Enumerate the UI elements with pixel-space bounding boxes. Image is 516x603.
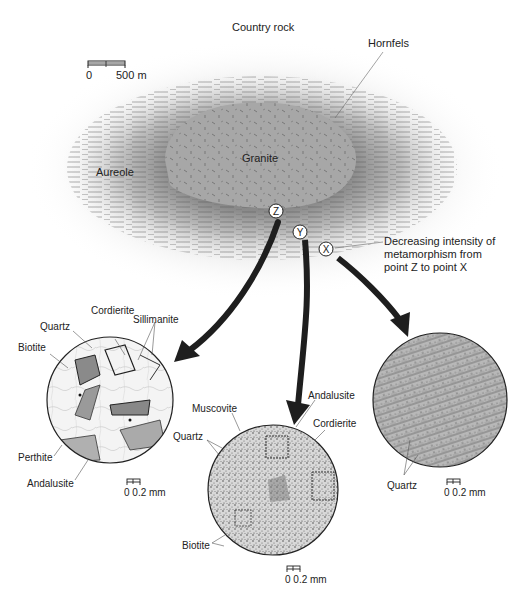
point-y-marker: Y (293, 225, 307, 239)
y-label-cordierite: Cordierite (313, 418, 356, 429)
y-label-muscovite: Muscovite (192, 403, 237, 414)
map-scale-end: 500 m (116, 69, 147, 81)
z-label-sillimanite: Sillimanite (133, 314, 179, 325)
caption-line-3: point Z to point X (384, 262, 467, 273)
svg-text:X: X (323, 244, 330, 255)
z-label-quartz: Quartz (40, 321, 70, 332)
y-label-quartz: Quartz (173, 431, 203, 442)
x-scale-label: 0 0.2 mm (444, 487, 486, 498)
scale-bar-z (127, 479, 140, 485)
label-granite: Granite (242, 153, 278, 164)
scale-bar-x (447, 479, 460, 485)
z-scale-label: 0 0.2 mm (124, 487, 166, 498)
z-label-andalusite: Andalusite (27, 478, 74, 489)
x-label-quartz: Quartz (387, 480, 417, 491)
point-z-marker: Z (269, 204, 283, 218)
map-scale-start: 0 (86, 69, 92, 81)
caption-line-2: metamorphism from (384, 249, 482, 260)
thin-section-x (373, 333, 507, 467)
metamorphism-diagram: Z Y X (0, 0, 516, 603)
svg-text:Z: Z (273, 206, 279, 217)
z-label-perthite: Perthite (18, 452, 52, 463)
y-scale-label: 0 0.2 mm (285, 574, 327, 585)
label-hornfels: Hornfels (368, 38, 409, 49)
point-x-marker: X (319, 242, 333, 256)
thin-section-z (47, 337, 173, 463)
z-label-biotite: Biotite (18, 342, 46, 353)
caption-line-1: Decreasing intensity of (384, 236, 495, 247)
thin-section-y (208, 425, 338, 555)
svg-text:Y: Y (297, 227, 304, 238)
y-label-andalusite: Andalusite (308, 390, 355, 401)
label-aureole: Aureole (96, 167, 134, 178)
label-country-rock: Country rock (232, 22, 294, 33)
z-label-cordierite: Cordierite (91, 305, 134, 316)
scale-bar-y (287, 566, 300, 572)
y-label-biotite: Biotite (182, 540, 210, 551)
